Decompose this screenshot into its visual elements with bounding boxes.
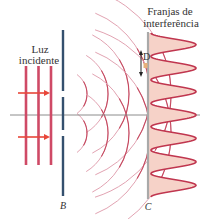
screen-label: C	[145, 201, 152, 212]
barrier-label: B	[60, 200, 66, 211]
detector-marker	[144, 63, 148, 68]
wavefront-arc-faint	[77, 114, 87, 153]
fringes-label-line1: Franjas de	[147, 5, 193, 17]
wavefront-arc-faint	[77, 75, 87, 114]
wavefront-arc-faint	[95, 52, 150, 214]
incident-arrow-head-icon	[44, 134, 50, 140]
wavefront-arc-faint	[86, 94, 108, 171]
wavefront-arc-faint	[92, 74, 129, 192]
incident-light-label-line2: incidente	[19, 54, 59, 66]
wavefront-arc-faint	[92, 35, 129, 153]
wavefront-arc-faint	[86, 55, 108, 132]
wavefront-arc	[84, 121, 88, 146]
double-slit-diagram: D Luz incidente Franjas de interferência…	[0, 0, 217, 219]
incident-arrow-head-icon	[44, 90, 50, 96]
fringe-intensity-fill	[149, 33, 196, 197]
fringes-label-line2: interferência	[143, 17, 199, 29]
distance-label: D	[143, 51, 150, 62]
distance-arrow-down-icon	[139, 72, 143, 77]
wavefront-arc-faint	[95, 13, 150, 175]
